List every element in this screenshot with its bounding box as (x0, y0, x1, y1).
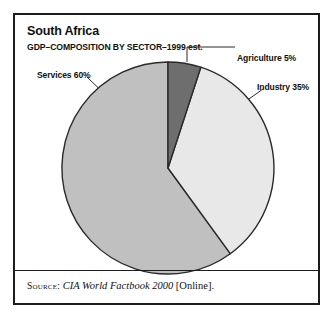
figure-frame: South Africa GDP–COMPOSITION BY SECTOR–1… (13, 13, 320, 305)
source-work-title: CIA World Factbook 2000 (63, 280, 174, 291)
pie-label-agriculture: Agriculture 5% (237, 53, 296, 63)
pie-label-services: Services 60% (37, 70, 91, 80)
source-divider (15, 270, 318, 271)
source-note: Source: CIA World Factbook 2000 [Online]… (27, 280, 214, 291)
source-suffix: [Online]. (176, 280, 214, 291)
source-kicker: Source: (27, 281, 60, 291)
pie-chart: Agriculture 5% Industry 35% Services 60% (15, 15, 318, 303)
pie-label-industry: Industry 35% (257, 82, 309, 92)
agriculture-leader-line (187, 47, 235, 62)
